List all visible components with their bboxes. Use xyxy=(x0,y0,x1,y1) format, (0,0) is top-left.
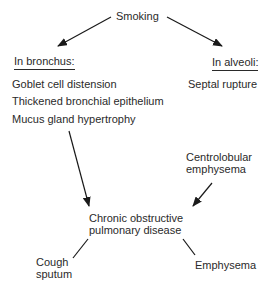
diagram-arrows xyxy=(0,0,273,287)
bronchus-item-mucus: Mucus gland hypertrophy xyxy=(12,113,136,125)
node-centrolobular: Centrolobular xyxy=(186,151,252,163)
bronchus-item-epithelium: Thickened bronchial epithelium xyxy=(12,95,164,107)
arrow-bronchus-to-copd xyxy=(69,131,89,206)
outcome-sputum: sputum xyxy=(36,268,72,280)
node-smoking: Smoking xyxy=(116,10,159,22)
arrow-smoking-to-bronchus xyxy=(58,17,111,46)
outcome-emphysema: Emphysema xyxy=(195,259,256,271)
line-copd-to-emphysema xyxy=(183,239,195,255)
alveoli-item-septal: Septal rupture xyxy=(188,78,257,90)
arrow-centrolobular-to-copd xyxy=(193,183,212,206)
heading-in-bronchus: In bronchus: xyxy=(14,55,75,70)
arrow-smoking-to-alveoli xyxy=(167,17,222,46)
heading-in-alveoli: In alveoli: xyxy=(212,56,258,71)
line-copd-to-cough xyxy=(73,239,88,258)
bronchus-item-goblet: Goblet cell distension xyxy=(12,78,117,90)
node-copd-line2: pulmonary disease xyxy=(89,224,181,236)
node-copd-line1: Chronic obstructive xyxy=(89,212,183,224)
node-emphysema-label: emphysema xyxy=(186,163,246,175)
outcome-cough: Cough xyxy=(36,256,68,268)
